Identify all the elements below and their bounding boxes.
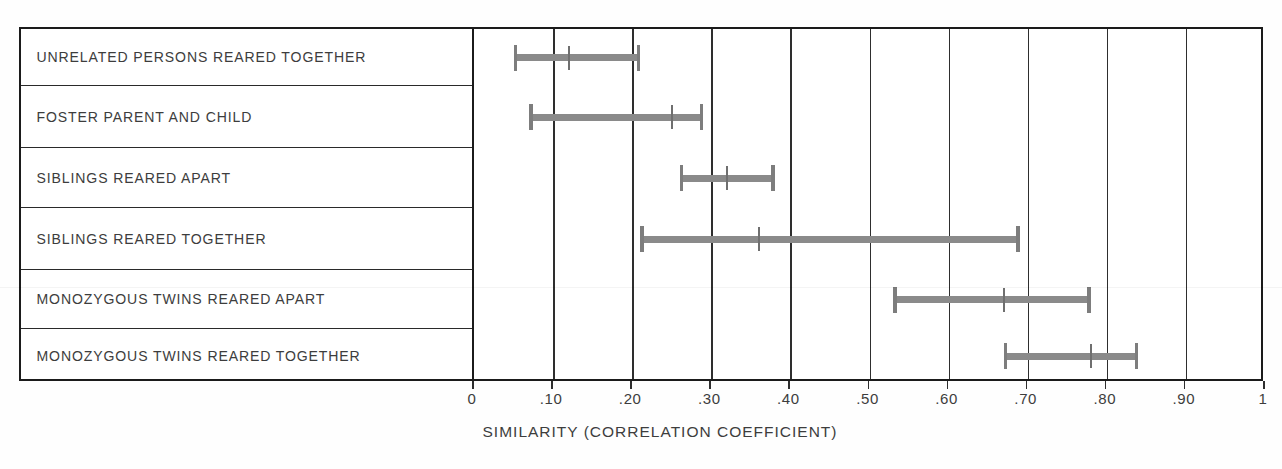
- axis-tick: [709, 381, 711, 389]
- median-marker: [1090, 344, 1093, 368]
- category-row: SIBLINGS REARED TOGETHER: [21, 208, 472, 270]
- category-row: MONOZYGOUS TWINS REARED TOGETHER: [21, 329, 472, 383]
- axis-tick-label: .90: [1173, 390, 1196, 407]
- axis-tick-label: .70: [1014, 390, 1037, 407]
- high-cap: [1087, 287, 1091, 313]
- median-marker: [1003, 288, 1006, 312]
- axis-tick-label: .10: [540, 390, 563, 407]
- low-cap: [529, 104, 533, 130]
- median-marker: [726, 166, 729, 190]
- low-cap: [680, 165, 684, 191]
- range-segment: [514, 54, 641, 61]
- chart-frame: UNRELATED PERSONS REARED TOGETHER FOSTER…: [19, 27, 1263, 381]
- category-label: SIBLINGS REARED TOGETHER: [21, 231, 266, 247]
- gridline: [1028, 29, 1030, 379]
- high-cap: [637, 45, 641, 71]
- axis-tick-label: 1: [1259, 390, 1268, 407]
- x-axis-title-text: SIMILARITY (CORRELATION COEFFICIENT): [483, 423, 838, 441]
- range-segment: [1004, 353, 1138, 360]
- gridline: [1107, 29, 1109, 379]
- low-cap: [893, 287, 897, 313]
- axis-tick: [1026, 381, 1028, 389]
- plot-area: [474, 29, 1261, 379]
- category-label: MONOZYGOUS TWINS REARED APART: [21, 291, 325, 307]
- axis-tick: [1184, 381, 1186, 389]
- gridline: [949, 29, 951, 379]
- low-cap: [1004, 343, 1008, 369]
- category-row: UNRELATED PERSONS REARED TOGETHER: [21, 29, 472, 86]
- axis-tick-label: .30: [698, 390, 721, 407]
- low-cap: [514, 45, 518, 71]
- low-cap: [640, 226, 644, 252]
- median-marker: [758, 227, 761, 251]
- high-cap: [771, 165, 775, 191]
- gridline: [553, 29, 555, 379]
- axis-tick: [551, 381, 553, 389]
- axis-tick-label: 0: [468, 390, 477, 407]
- category-row: FOSTER PARENT AND CHILD: [21, 86, 472, 148]
- gridline: [790, 29, 792, 379]
- axis-tick: [630, 381, 632, 389]
- gridline: [870, 29, 872, 379]
- axis-tick-label: .50: [856, 390, 879, 407]
- axis-tick: [1263, 381, 1265, 389]
- gridline: [1186, 29, 1188, 379]
- range-segment: [529, 114, 703, 121]
- category-label-column: UNRELATED PERSONS REARED TOGETHER FOSTER…: [21, 29, 474, 379]
- median-marker: [671, 105, 674, 129]
- axis-tick-labels: 0.10.20.30.40.50.60.70.80.901: [0, 390, 1282, 412]
- high-cap: [1135, 343, 1139, 369]
- axis-tick: [868, 381, 870, 389]
- axis-tick: [788, 381, 790, 389]
- axis-tick: [472, 381, 474, 389]
- range-segment: [640, 236, 1020, 243]
- category-label: SIBLINGS REARED APART: [21, 170, 231, 186]
- high-cap: [1016, 226, 1020, 252]
- axis-ticks: [0, 381, 1282, 389]
- axis-tick-label: .20: [619, 390, 642, 407]
- median-marker: [568, 46, 571, 70]
- range-segment: [893, 296, 1091, 303]
- gridline: [632, 29, 634, 379]
- category-label: FOSTER PARENT AND CHILD: [21, 109, 252, 125]
- category-label: MONOZYGOUS TWINS REARED TOGETHER: [21, 348, 361, 364]
- axis-tick: [1105, 381, 1107, 389]
- axis-tick: [947, 381, 949, 389]
- category-row: SIBLINGS REARED APART: [21, 148, 472, 208]
- axis-tick-label: .40: [777, 390, 800, 407]
- axis-tick-label: .60: [935, 390, 958, 407]
- x-axis-title: SIMILARITY (CORRELATION COEFFICIENT): [0, 423, 1282, 441]
- axis-tick-label: .80: [1093, 390, 1116, 407]
- gridline: [711, 29, 713, 379]
- category-row: MONOZYGOUS TWINS REARED APART: [21, 270, 472, 329]
- high-cap: [700, 104, 704, 130]
- category-label: UNRELATED PERSONS REARED TOGETHER: [21, 49, 366, 65]
- chart-root: UNRELATED PERSONS REARED TOGETHER FOSTER…: [0, 0, 1282, 469]
